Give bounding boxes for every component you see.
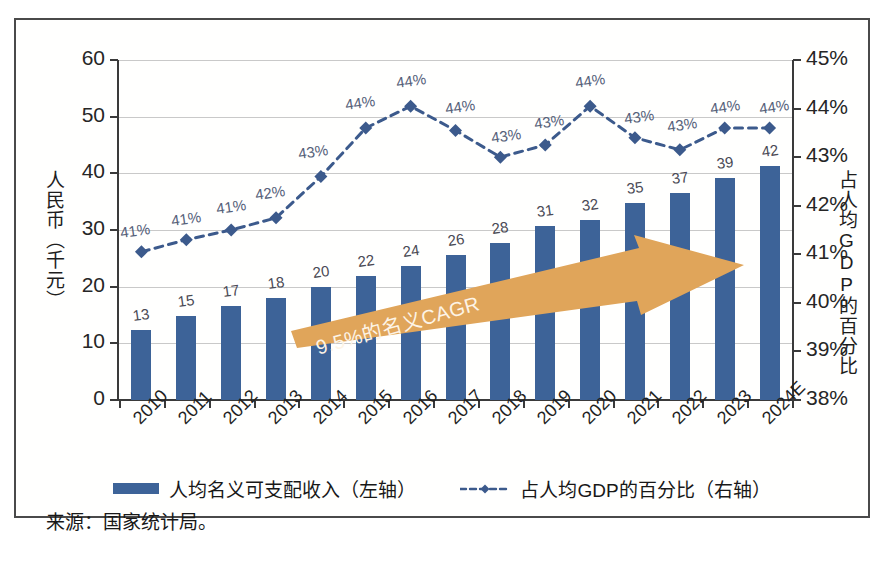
line-marker[interactable] — [539, 139, 552, 152]
left-axis-tick-label: 40 — [82, 159, 105, 183]
left-axis-tick — [110, 59, 118, 61]
percentage-data-label: 44% — [574, 70, 606, 91]
gridline — [119, 173, 792, 174]
line-marker[interactable] — [270, 211, 283, 224]
bar-data-label: 15 — [177, 291, 196, 310]
right-axis-tick-label: 43% — [806, 143, 848, 167]
left-axis-tick-label: 0 — [93, 386, 105, 410]
chart-frame: 人民币（千元） 占人均GDP的百分比 0102030405060 38%39%4… — [14, 18, 870, 518]
bar[interactable] — [625, 203, 645, 400]
percentage-data-label: 44% — [395, 70, 427, 91]
right-axis-tick-label: 42% — [806, 192, 848, 216]
bar-data-label: 39 — [715, 153, 734, 172]
right-axis-tick-label: 40% — [806, 289, 848, 313]
left-axis-tick-label: 20 — [82, 273, 105, 297]
line-marker[interactable] — [673, 143, 686, 156]
left-axis-tick-label: 60 — [82, 46, 105, 70]
legend-line-swatch-icon — [460, 483, 510, 495]
legend-label-line: 占人均GDP的百分比（右轴） — [520, 475, 770, 502]
left-axis-tick — [110, 399, 118, 401]
left-axis-tick — [110, 116, 118, 118]
right-axis-tick — [793, 350, 801, 352]
percentage-data-label: 43% — [297, 141, 329, 162]
legend-label-bar: 人均名义可支配收入（左轴） — [169, 475, 416, 502]
bar[interactable] — [670, 193, 690, 400]
bar[interactable] — [715, 178, 735, 400]
line-marker[interactable] — [180, 233, 193, 246]
line-marker[interactable] — [494, 151, 507, 164]
bar-data-label: 32 — [581, 195, 600, 214]
bar[interactable] — [131, 330, 151, 400]
left-axis-title: 人民币（千元） — [40, 170, 67, 310]
line-marker[interactable] — [763, 122, 776, 135]
bar-data-label: 20 — [311, 262, 330, 281]
percentage-data-label: 43% — [666, 114, 698, 135]
line-marker[interactable] — [404, 100, 417, 113]
percentage-data-label: 42% — [254, 182, 286, 203]
bar-data-label: 28 — [491, 218, 510, 237]
line-marker[interactable] — [718, 122, 731, 135]
bar-data-label: 17 — [222, 281, 241, 300]
gridline — [119, 60, 792, 61]
line-marker[interactable] — [135, 245, 148, 258]
right-axis-tick — [793, 302, 801, 304]
percentage-data-label: 44% — [344, 92, 376, 113]
percentage-data-label: 43% — [490, 125, 522, 146]
bar[interactable] — [446, 255, 466, 400]
plot-area: 0102030405060 38%39%40%41%42%43%44%45% 4… — [119, 60, 792, 400]
bar[interactable] — [490, 243, 510, 400]
left-axis-tick-label: 50 — [82, 103, 105, 127]
right-axis-tick — [793, 108, 801, 110]
left-axis-tick — [110, 342, 118, 344]
left-axis-tick-label: 30 — [82, 216, 105, 240]
percentage-data-label: 41% — [215, 196, 247, 217]
chart-legend: 人均名义可支配收入（左轴） 占人均GDP的百分比（右轴） — [16, 475, 868, 502]
bar-data-label: 13 — [132, 305, 151, 324]
bar[interactable] — [221, 306, 241, 400]
right-axis-tick — [793, 156, 801, 158]
percentage-data-label: 43% — [533, 111, 565, 132]
source-note: 来源：国家统计局。 — [46, 507, 217, 534]
right-axis-tick-label: 39% — [806, 337, 848, 361]
percentage-data-label: 44% — [443, 96, 475, 117]
right-axis-tick — [793, 205, 801, 207]
percentage-data-label: 43% — [623, 106, 655, 127]
percentage-data-label: 44% — [758, 96, 790, 117]
bar-data-label: 42 — [760, 141, 779, 160]
bar-data-label: 22 — [356, 251, 375, 270]
line-marker[interactable] — [359, 122, 372, 135]
left-axis-tick — [110, 286, 118, 288]
right-axis-tick — [793, 253, 801, 255]
percentage-data-label: 44% — [709, 96, 741, 117]
line-marker[interactable] — [584, 100, 597, 113]
bar[interactable] — [760, 166, 780, 400]
bar[interactable] — [176, 316, 196, 400]
left-axis-tick — [110, 229, 118, 231]
percentage-data-label: 41% — [119, 220, 151, 241]
left-axis-tick-label: 10 — [82, 329, 105, 353]
line-marker[interactable] — [314, 170, 327, 183]
right-axis-tick-label: 45% — [806, 46, 848, 70]
bar[interactable] — [266, 298, 286, 400]
bar-data-label: 18 — [267, 273, 286, 292]
percentage-data-label: 41% — [170, 208, 202, 229]
bar-data-label: 37 — [670, 168, 689, 187]
right-axis-tick-label: 38% — [806, 386, 848, 410]
legend-bar-swatch-icon — [113, 483, 159, 494]
bar-data-label: 26 — [446, 230, 465, 249]
bar-data-label: 24 — [401, 241, 420, 260]
legend-item-bar[interactable]: 人均名义可支配收入（左轴） — [113, 475, 416, 502]
left-axis-tick — [110, 172, 118, 174]
right-axis-line — [792, 60, 794, 400]
line-marker[interactable] — [449, 124, 462, 137]
right-axis-tick-label: 44% — [806, 95, 848, 119]
right-axis-tick-label: 41% — [806, 240, 848, 264]
right-axis-tick — [793, 59, 801, 61]
bar[interactable] — [535, 226, 555, 400]
legend-item-line[interactable]: 占人均GDP的百分比（右轴） — [460, 475, 770, 502]
x-axis-tick — [119, 400, 121, 408]
bar-data-label: 35 — [626, 178, 645, 197]
line-marker[interactable] — [628, 131, 641, 144]
bar[interactable] — [580, 220, 600, 400]
bar-data-label: 31 — [536, 201, 555, 220]
